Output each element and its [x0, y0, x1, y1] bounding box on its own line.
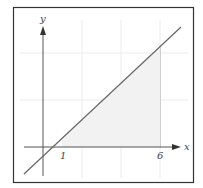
tick-label-1: 1 [60, 150, 66, 161]
tick-label-6: 6 [157, 150, 164, 161]
y-axis-label: y [39, 13, 46, 24]
x-axis-label: x [184, 141, 190, 152]
graph-figure: x y 1 6 [0, 0, 203, 188]
